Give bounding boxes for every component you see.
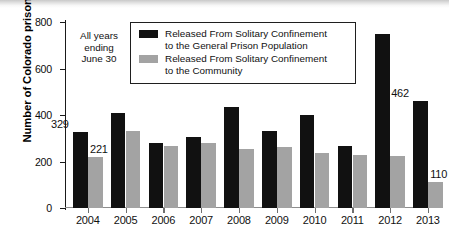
x-tick-2006	[163, 208, 164, 213]
legend-label-line-2: to the General Prison Population	[165, 40, 327, 52]
x-tick-2008	[239, 208, 240, 213]
x-tick-2007	[201, 208, 202, 213]
y-tick-400: 400	[60, 115, 65, 116]
x-axis-label-2008: 2008	[227, 214, 251, 226]
x-axis-label-2005: 2005	[114, 214, 138, 226]
x-axis-label-2011: 2011	[341, 214, 364, 226]
bar-general-prison-population-2008	[224, 107, 239, 208]
y-tick-600: 600	[60, 69, 65, 70]
x-axis-label-2010: 2010	[303, 214, 327, 226]
bar-general-prison-population-2005	[111, 113, 126, 208]
legend-label-line-1: Released From Solitary Confinement	[165, 28, 327, 40]
y-tick-800: 800	[60, 22, 65, 23]
y-tick-label-0: 0	[46, 202, 52, 214]
legend-item-community: Released From Solitary Confinement to th…	[139, 53, 349, 76]
bar-community-2009	[277, 147, 292, 208]
y-tick-label-600: 600	[35, 63, 52, 75]
data-label-black-2013: 462	[391, 87, 409, 99]
y-axis-title: Number of Colorado prisoners	[21, 0, 33, 155]
data-label-black-2004: 329	[51, 118, 69, 130]
bar-community-2005	[126, 131, 141, 208]
bar-community-2011	[353, 155, 368, 208]
x-axis-label-2012: 2012	[378, 214, 402, 226]
legend-swatch-gray	[139, 55, 158, 63]
chart-annotation: All years ending June 30	[68, 30, 130, 65]
bar-general-prison-population-2013	[413, 101, 428, 208]
x-tick-2004	[88, 208, 89, 213]
x-tick-2013	[428, 208, 429, 213]
bar-community-2013	[428, 182, 443, 208]
bar-community-2007	[201, 143, 216, 208]
data-label-gray-2004: 221	[90, 143, 108, 155]
x-tick-2012	[390, 208, 391, 213]
chart-figure: Number of Colorado prisoners 02004006008…	[0, 0, 449, 249]
bar-community-2006	[164, 146, 179, 208]
legend-label-line-2: to the Community	[165, 65, 327, 77]
bar-general-prison-population-2004	[73, 132, 88, 208]
x-axis-label-2004: 2004	[76, 214, 100, 226]
legend-swatch-black	[139, 30, 158, 38]
top-edge-artifact-2	[0, 5, 449, 8]
x-tick-2005	[126, 208, 127, 213]
legend-label-community: Released From Solitary Confinement to th…	[165, 53, 327, 76]
annotation-line-2: ending	[68, 42, 130, 54]
x-axis-label-2006: 2006	[152, 214, 176, 226]
x-tick-2010	[315, 208, 316, 213]
x-tick-2009	[277, 208, 278, 213]
annotation-line-3: June 30	[68, 53, 130, 65]
bar-general-prison-population-2006	[149, 143, 164, 208]
y-tick-0: 0	[60, 208, 65, 209]
x-tick-2011	[352, 208, 353, 213]
y-tick-label-800: 800	[35, 16, 52, 28]
bar-general-prison-population-2007	[186, 137, 201, 208]
legend-label-line-1: Released From Solitary Confinement	[165, 53, 327, 65]
y-axis-line	[65, 20, 66, 210]
bar-community-2008	[239, 149, 254, 208]
legend-item-general-prison-population: Released From Solitary Confinement to th…	[139, 28, 349, 51]
bar-community-2004	[88, 157, 103, 208]
bar-general-prison-population-2012	[375, 34, 390, 208]
data-label-gray-2013: 110	[430, 168, 447, 180]
bar-general-prison-population-2010	[300, 115, 315, 208]
x-axis-label-2013: 2013	[416, 214, 440, 226]
annotation-line-1: All years	[68, 30, 130, 42]
y-tick-label-200: 200	[35, 156, 52, 168]
bar-community-2012	[390, 156, 405, 208]
bar-general-prison-population-2009	[262, 131, 277, 208]
bottom-edge-artifact	[0, 245, 449, 249]
x-axis-label-2009: 2009	[265, 214, 289, 226]
chart-legend: Released From Solitary Confinement to th…	[130, 22, 356, 84]
bar-general-prison-population-2011	[338, 146, 353, 208]
y-tick-200: 200	[60, 162, 65, 163]
bar-community-2010	[315, 153, 330, 208]
legend-label-general-prison-population: Released From Solitary Confinement to th…	[165, 28, 327, 51]
x-axis-label-2007: 2007	[189, 214, 213, 226]
y-tick-label-400: 400	[35, 109, 52, 121]
